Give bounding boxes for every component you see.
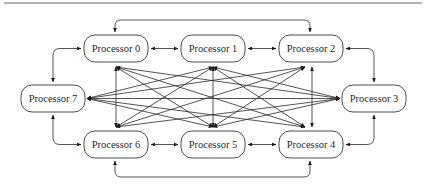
node-label: Processor 3 [350, 93, 399, 104]
node-processor-3: Processor 3 [342, 85, 406, 112]
node-label: Processor 7 [29, 93, 78, 104]
node-label: Processor 0 [92, 43, 141, 54]
node-label: Processor 4 [287, 139, 336, 150]
mesh-link-p7-p4 [87, 99, 305, 128]
node-label: Processor 5 [189, 139, 238, 150]
ring-link-p2-p3 [346, 49, 374, 83]
mesh-link-p7-p2 [87, 67, 305, 99]
node-processor-1: Processor 1 [181, 35, 245, 62]
node-processor-6: Processor 6 [84, 131, 148, 158]
mesh-link-p3-p5 [213, 99, 340, 128]
nodes-layer: Processor 0Processor 1Processor 2Process… [21, 35, 406, 158]
node-processor-2: Processor 2 [279, 35, 343, 62]
node-label: Processor 6 [92, 139, 141, 150]
node-processor-4: Processor 4 [279, 131, 343, 158]
processor-network-diagram: Processor 0Processor 1Processor 2Process… [0, 0, 426, 188]
node-processor-5: Processor 5 [181, 131, 245, 158]
outer-link-p0-p2 [115, 20, 310, 32]
node-label: Processor 1 [189, 43, 238, 54]
node-label: Processor 2 [287, 43, 336, 54]
ring-link-p6-p7 [53, 115, 81, 145]
mesh-link-p1-p3 [213, 67, 340, 99]
ring-link-p7-p0 [53, 49, 81, 83]
node-processor-7: Processor 7 [21, 85, 85, 112]
outer-link-p6-p4 [115, 161, 310, 177]
node-processor-0: Processor 0 [84, 35, 148, 62]
ring-link-p3-p4 [346, 115, 374, 145]
